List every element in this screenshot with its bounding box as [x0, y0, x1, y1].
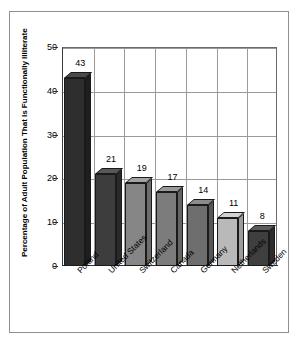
x-axis-labels: PolandUnited StatesSwitzerlandCanadaGerm…	[62, 268, 278, 338]
bar-poland	[64, 72, 91, 266]
y-tick-mark	[53, 266, 58, 267]
bar-side-face	[85, 73, 91, 266]
x-tick-label: Poland	[75, 268, 82, 275]
bar-value-label: 8	[260, 212, 265, 221]
x-tick-label: United States	[106, 268, 113, 275]
bar-front-face	[64, 78, 85, 266]
bar-value-label: 11	[229, 199, 238, 208]
x-tick-label: Switzerland	[137, 268, 144, 275]
bar-value-label: 43	[75, 59, 85, 68]
bar-front-face	[95, 174, 116, 266]
bar-value-label: 19	[137, 164, 147, 173]
bar-value-label: 17	[168, 173, 178, 182]
x-tick-label: Netherlands	[229, 268, 236, 275]
y-tick-mark	[53, 178, 58, 179]
x-tick-label: Canada	[168, 268, 175, 275]
bar-value-label: 14	[198, 186, 208, 195]
y-tick-mark	[53, 47, 58, 48]
bar-united-states	[95, 168, 122, 266]
y-tick-mark	[53, 222, 58, 223]
y-tick-mark	[53, 91, 58, 92]
y-tick-mark	[53, 135, 58, 136]
bar-value-label: 21	[106, 155, 116, 164]
chart-frame: Percentage of Adult Population That Is F…	[9, 11, 289, 333]
x-tick-label: Sweden	[260, 268, 267, 275]
bars-layer: 4321191714118	[62, 47, 278, 266]
y-axis-ticks: 01020304050	[27, 47, 57, 266]
x-tick-label: Germany	[198, 268, 205, 275]
